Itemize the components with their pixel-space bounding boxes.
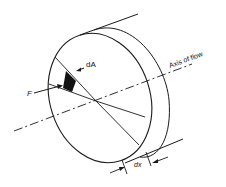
disk-front-face <box>32 20 168 176</box>
radial-lines <box>49 57 145 145</box>
dx-right-arrow-icon <box>152 159 158 163</box>
label-dx: dx <box>134 161 142 168</box>
axis-of-flow-line <box>14 64 192 131</box>
diagram-canvas: dA F Axis of flow dx <box>0 0 226 187</box>
area-element-da <box>63 71 76 92</box>
label-da: dA <box>86 60 96 69</box>
da-pointer-arrow-icon <box>76 68 84 72</box>
label-force: F <box>27 89 33 98</box>
label-axis-of-flow: Axis of flow <box>168 50 205 69</box>
top-tangent-line <box>80 14 138 35</box>
bottom-tangent-line <box>125 139 183 163</box>
dx-left-arrow-icon <box>119 167 125 171</box>
disk-diagram: dA F Axis of flow dx <box>0 0 226 187</box>
